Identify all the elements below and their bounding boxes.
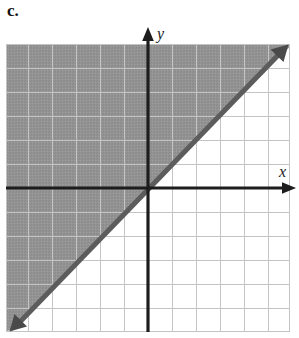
y-axis-label: y bbox=[157, 26, 164, 42]
figure-panel: c. bbox=[0, 0, 299, 338]
coordinate-plane-graph bbox=[0, 0, 299, 338]
x-axis-label: x bbox=[279, 164, 286, 180]
